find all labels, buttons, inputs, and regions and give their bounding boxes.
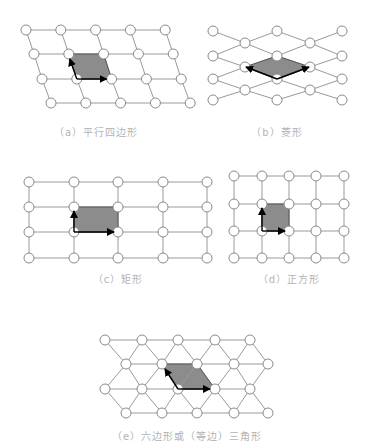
panel-parallelogram <box>21 25 195 108</box>
lattice-node <box>158 177 168 187</box>
lattice-node <box>210 335 220 345</box>
caption-b: （b）菱形 <box>251 124 302 139</box>
lattice-node <box>339 253 349 263</box>
lattice-node <box>24 202 34 212</box>
lattice-node <box>263 359 273 369</box>
lattice-node <box>311 253 321 263</box>
lattice-node <box>24 253 34 263</box>
lattice-node <box>311 171 321 181</box>
caption-a: （a）平行四边形 <box>54 124 138 139</box>
lattice-node <box>69 202 79 212</box>
lattice-node <box>69 177 79 187</box>
lattice-node <box>339 171 349 181</box>
lattice-node <box>192 359 202 369</box>
lattice-node <box>158 253 168 263</box>
lattice-node <box>168 49 178 59</box>
lattice-node <box>284 253 294 263</box>
lattice-node <box>137 384 147 394</box>
lattice-node <box>245 335 255 345</box>
lattice-node <box>339 199 349 209</box>
caption-e: （e）六边形或（等边）三角形 <box>112 428 262 443</box>
lattice-node <box>113 227 123 237</box>
caption-c: （c）矩形 <box>93 271 144 286</box>
lattice-node <box>284 199 294 209</box>
lattice-node <box>150 98 160 108</box>
lattice-node <box>37 74 47 84</box>
panel-rhombus <box>208 26 347 105</box>
lattice-node <box>284 171 294 181</box>
lattice-node <box>113 202 123 212</box>
lattice-node <box>160 25 170 35</box>
lattice-node <box>240 62 250 72</box>
lattice-node <box>202 202 212 212</box>
lattice-node <box>64 49 74 59</box>
lattice-node <box>272 95 282 105</box>
lattice-node <box>113 177 123 187</box>
lattice-node <box>337 26 347 36</box>
lattice-node <box>56 25 66 35</box>
lattice-node <box>157 408 167 418</box>
lattice-node <box>133 49 143 59</box>
panel-square <box>229 171 349 263</box>
lattice-node <box>158 202 168 212</box>
lattice-node <box>121 408 131 418</box>
lattice-node <box>24 227 34 237</box>
lattice-node <box>229 408 239 418</box>
lattice-node <box>311 226 321 236</box>
lattice-node <box>81 98 91 108</box>
lattice-node <box>229 171 239 181</box>
lattice-node <box>185 98 195 108</box>
lattice-node <box>157 359 167 369</box>
lattice-node <box>337 74 347 84</box>
lattice-node <box>137 335 147 345</box>
lattice-node <box>91 25 101 35</box>
lattice-node <box>116 98 126 108</box>
lattice-node <box>257 253 267 263</box>
lattice-node <box>272 51 282 61</box>
lattice-node <box>29 49 39 59</box>
lattice-diagrams <box>0 0 372 448</box>
lattice-node <box>158 227 168 237</box>
caption-d: （d）正方形 <box>258 271 320 286</box>
lattice-node <box>202 253 212 263</box>
lattice-node <box>141 74 151 84</box>
lattice-node <box>257 171 267 181</box>
lattice-node <box>305 62 315 72</box>
lattice-node <box>305 38 315 48</box>
lattice-node <box>210 384 220 394</box>
lattice-node <box>125 25 135 35</box>
lattice-node <box>202 177 212 187</box>
lattice-node <box>245 384 255 394</box>
lattice-node <box>272 26 282 36</box>
lattice-node <box>208 95 218 105</box>
lattice-node <box>202 227 212 237</box>
lattice-node <box>229 253 239 263</box>
lattice-node <box>21 25 31 35</box>
lattice-node <box>208 51 218 61</box>
panel-hexagonal <box>100 335 273 418</box>
lattice-node <box>121 359 131 369</box>
lattice-node <box>339 226 349 236</box>
lattice-node <box>176 74 186 84</box>
lattice-node <box>208 26 218 36</box>
lattice-node <box>46 98 56 108</box>
lattice-node <box>208 74 218 84</box>
lattice-node <box>100 384 110 394</box>
lattice-node <box>240 38 250 48</box>
lattice-node <box>24 177 34 187</box>
lattice-node <box>229 359 239 369</box>
lattice-node <box>284 226 294 236</box>
lattice-node <box>113 253 123 263</box>
lattice-node <box>69 253 79 263</box>
lattice-node <box>107 74 117 84</box>
lattice-node <box>337 51 347 61</box>
lattice-node <box>100 335 110 345</box>
lattice-node <box>257 199 267 209</box>
panel-rectangle <box>24 177 212 263</box>
lattice-node <box>192 408 202 418</box>
lattice-node <box>99 49 109 59</box>
lattice-node <box>229 199 239 209</box>
lattice-node <box>311 199 321 209</box>
lattice-node <box>173 335 183 345</box>
lattice-node <box>305 85 315 95</box>
